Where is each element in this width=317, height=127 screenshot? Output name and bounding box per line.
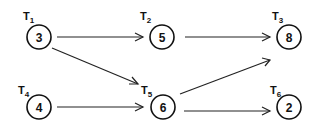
edge-t5-t3 — [180, 58, 270, 94]
edge-t5-t6 — [184, 107, 270, 115]
edge-t1-t2 — [57, 33, 143, 41]
node-t1: 3 T1 — [23, 10, 51, 49]
node-label: T2 — [140, 10, 152, 25]
node-value: 5 — [159, 31, 166, 45]
node-t3: 8 T3 — [272, 10, 301, 49]
node-t2: 5 T2 — [140, 10, 174, 49]
node-t4: 4 T4 — [18, 84, 51, 119]
edge-t4-t5 — [57, 103, 143, 111]
edge-t1-t5 — [52, 48, 138, 84]
node-label: T6 — [270, 84, 282, 99]
node-label: T4 — [18, 84, 30, 99]
node-label: T5 — [141, 84, 153, 99]
node-value: 2 — [286, 101, 293, 115]
node-value: 3 — [36, 31, 43, 45]
edge-t2-t3 — [185, 33, 270, 41]
node-label: T1 — [23, 10, 35, 25]
node-t6: 2 T6 — [270, 84, 301, 119]
dependency-graph: 3 T1 5 T2 8 T3 4 T4 6 T5 2 T6 — [0, 0, 317, 127]
node-value: 4 — [36, 101, 43, 115]
node-value: 8 — [286, 31, 293, 45]
node-t5: 6 T5 — [141, 84, 175, 119]
node-value: 6 — [160, 101, 167, 115]
node-label: T3 — [272, 10, 284, 25]
